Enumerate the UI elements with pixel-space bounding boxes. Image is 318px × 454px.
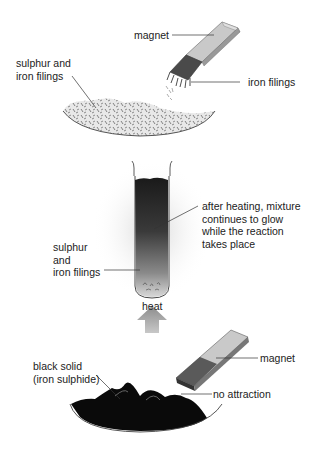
label-no-attraction: no attraction: [213, 388, 271, 401]
test-tube: [132, 161, 172, 298]
magnet-with-filings: [166, 22, 240, 100]
dish-with-mixture: [63, 98, 215, 136]
label-magnet-bottom: magnet: [260, 352, 295, 365]
label-heat: heat: [142, 300, 162, 313]
dish-with-iron-sulphide: [70, 383, 222, 433]
label-glow-description: after heating, mixture continues to glow…: [202, 200, 301, 250]
label-sulphur-iron-mixture: sulphur and iron filings: [16, 57, 71, 83]
magnet-no-attraction: [176, 330, 249, 391]
label-sulphur-iron-tube: sulphur and iron filings: [53, 241, 100, 279]
label-black-solid: black solid (iron sulphide): [33, 360, 100, 386]
label-iron-filings: iron filings: [248, 76, 295, 89]
label-magnet-top: magnet: [134, 29, 169, 42]
